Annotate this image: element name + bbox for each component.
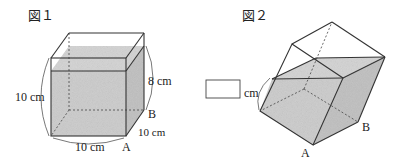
figure-2-title: 図２ <box>242 8 268 23</box>
unit-label: cm <box>244 86 259 100</box>
water-volume-fig1 <box>51 46 144 136</box>
width-label: 10 cm <box>75 140 105 154</box>
figure-2: 図２ <box>206 8 385 160</box>
water-height-label: 8 cm <box>148 74 172 88</box>
point-b-label-fig2: B <box>362 120 370 134</box>
depth-label: 10 cm <box>138 126 166 138</box>
height-label: 10 cm <box>15 90 45 104</box>
figure-1-title: 図１ <box>28 8 54 23</box>
figure-1: 図１ <box>15 8 172 154</box>
point-a-label-fig2: A <box>301 146 310 160</box>
point-b-label: B <box>148 107 156 121</box>
point-a-label: A <box>122 140 131 154</box>
diagram-canvas: 図１ <box>0 0 401 164</box>
answer-box[interactable] <box>206 80 240 98</box>
